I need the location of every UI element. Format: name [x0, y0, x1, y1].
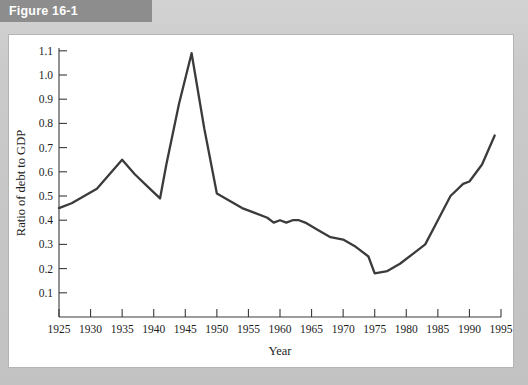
y-axis-title: Ratio of debt to GDP	[14, 130, 28, 236]
x-tick-label-1955: 1955	[237, 323, 260, 335]
figure-number-label: Figure 16-1	[9, 4, 78, 18]
x-tick-label-1950: 1950	[205, 323, 228, 335]
y-tick-label-0.4: 0.4	[39, 214, 54, 226]
debt-to-gdp-series-line	[59, 53, 495, 273]
x-tick-label-1965: 1965	[300, 323, 323, 335]
y-tick-label-0.7: 0.7	[39, 142, 54, 154]
x-tick-label-1930: 1930	[79, 323, 102, 335]
x-tick-label-1935: 1935	[111, 323, 134, 335]
figure-page: Figure 16-1 0.10.20.30.40.50.60.70.80.91…	[0, 0, 528, 385]
y-axis-ticks	[59, 51, 67, 293]
y-tick-label-0.6: 0.6	[39, 166, 54, 178]
x-tick-label-1985: 1985	[426, 323, 449, 335]
x-tick-label-1940: 1940	[142, 323, 165, 335]
y-tick-label-0.1: 0.1	[39, 287, 54, 299]
y-tick-label-1.0: 1.0	[39, 69, 54, 81]
debt-to-gdp-line-chart: 0.10.20.30.40.50.60.70.80.91.01.1 192519…	[9, 35, 513, 367]
x-tick-label-1990: 1990	[458, 323, 481, 335]
y-tick-label-0.9: 0.9	[39, 93, 54, 105]
x-tick-label-1925: 1925	[48, 323, 71, 335]
y-tick-label-0.8: 0.8	[39, 117, 54, 129]
y-axis-tick-labels: 0.10.20.30.40.50.60.70.80.91.01.1	[39, 45, 54, 299]
chart-panel: 0.10.20.30.40.50.60.70.80.91.01.1 192519…	[8, 34, 514, 368]
x-tick-label-1960: 1960	[269, 323, 292, 335]
y-tick-label-1.1: 1.1	[39, 45, 54, 57]
x-tick-label-1980: 1980	[395, 323, 418, 335]
x-tick-label-1945: 1945	[174, 323, 197, 335]
x-tick-label-1970: 1970	[332, 323, 355, 335]
x-axis-title: Year	[268, 344, 292, 358]
y-tick-label-0.5: 0.5	[39, 190, 54, 202]
y-tick-label-0.2: 0.2	[39, 263, 54, 275]
y-tick-label-0.3: 0.3	[39, 238, 54, 250]
figure-banner: Figure 16-1	[0, 0, 152, 22]
x-axis-ticks	[59, 309, 501, 317]
x-tick-label-1975: 1975	[363, 323, 386, 335]
x-axis-tick-labels: 1925193019351940194519501955196019651970…	[48, 323, 513, 335]
x-tick-label-1995: 1995	[490, 323, 513, 335]
